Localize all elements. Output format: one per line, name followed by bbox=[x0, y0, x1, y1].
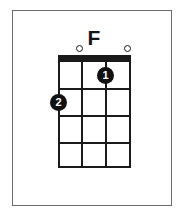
finger-dot-1: 1 bbox=[97, 67, 114, 84]
fret-line-1 bbox=[58, 88, 131, 90]
fret-line-2 bbox=[58, 115, 131, 117]
open-string-circle-icon-2 bbox=[76, 45, 83, 52]
chord-diagram-card: F 1 2 bbox=[0, 0, 185, 221]
nut-bar bbox=[58, 55, 131, 62]
fretboard: 1 2 bbox=[58, 55, 131, 168]
fret-line-3 bbox=[58, 142, 131, 144]
finger-dot-2: 2 bbox=[50, 94, 67, 111]
fret-line-4 bbox=[58, 166, 131, 168]
open-string-circle-icon-4 bbox=[124, 45, 131, 52]
chord-name-label: F bbox=[0, 27, 185, 48]
